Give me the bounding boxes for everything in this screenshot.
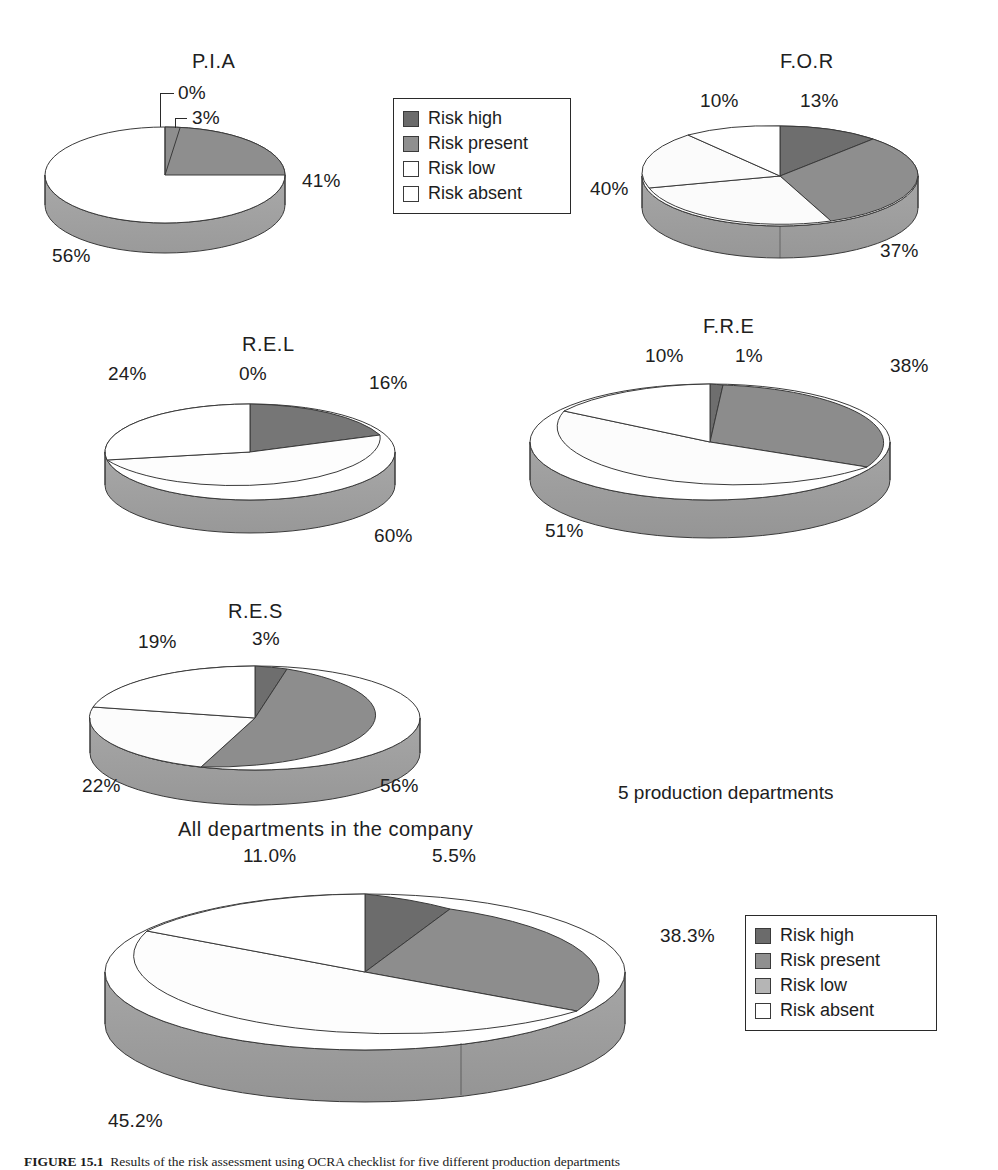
legend-item[interactable]: Risk low <box>403 156 558 181</box>
legend-item[interactable]: Risk present <box>755 948 924 973</box>
pie-value-all-risk-low: 45.2% <box>108 1110 163 1132</box>
figure-caption-label: FIGURE 15.1 Results of the risk assessme… <box>24 1154 620 1169</box>
pie-chart-rel <box>95 390 405 545</box>
pie-chart-pia <box>35 100 295 260</box>
legend-item[interactable]: Risk low <box>755 973 924 998</box>
leader-line-pia-0b <box>160 93 161 127</box>
leader-line-pia-1b <box>175 118 176 128</box>
legend-label-risk-high: Risk high <box>780 925 854 946</box>
pie-value-for-risk-low: 40% <box>590 178 629 200</box>
pie-title-for: F.O.R <box>780 50 834 73</box>
legend-label-risk-high: Risk high <box>428 108 502 129</box>
pie-value-all-risk-present: 38.3% <box>660 925 715 947</box>
pie-chart-res <box>80 650 430 815</box>
pie-value-for-risk-high: 13% <box>800 90 839 112</box>
legend-item[interactable]: Risk absent <box>403 181 558 206</box>
pie-value-rel-risk-high: 0% <box>239 363 267 385</box>
pie-value-res-risk-present: 56% <box>380 775 419 797</box>
legend-label-risk-present: Risk present <box>780 950 880 971</box>
legend-swatch-risk-present <box>403 136 419 152</box>
pie-value-for-risk-present: 37% <box>880 240 919 262</box>
pie-value-all-risk-absent: 11.0% <box>243 845 296 867</box>
leader-line-pia-1 <box>175 118 187 119</box>
pie-value-pia-risk-absent: 56% <box>52 245 91 267</box>
legend-label-risk-absent: Risk absent <box>428 183 522 204</box>
legend-item[interactable]: Risk present <box>403 131 558 156</box>
legend-swatch-risk-absent <box>755 1003 771 1019</box>
legend-item[interactable]: Risk high <box>403 106 558 131</box>
legend-label-risk-present: Risk present <box>428 133 528 154</box>
figure-caption-number: FIGURE 15.1 <box>24 1154 104 1169</box>
pie-value-fre-risk-high: 1% <box>735 345 763 367</box>
legend-swatch-risk-absent <box>403 186 419 202</box>
pie-title-all-departments: All departments in the company <box>178 818 473 841</box>
pie-value-rel-risk-absent: 24% <box>108 363 147 385</box>
pie-value-fre-risk-present: 38% <box>890 355 929 377</box>
pie-value-pia-risk-high: 0% <box>178 82 206 104</box>
pie-title-fre: F.R.E <box>703 315 754 338</box>
pie-value-rel-risk-present: 16% <box>369 372 408 394</box>
legend-item[interactable]: Risk high <box>755 923 924 948</box>
legend-swatch-risk-high <box>755 928 771 944</box>
legend-swatch-risk-present <box>755 953 771 969</box>
pie-title-res: R.E.S <box>228 600 283 623</box>
legend-top: Risk high Risk present Risk low Risk abs… <box>393 98 571 214</box>
pie-value-all-risk-high: 5.5% <box>432 845 476 867</box>
pie-title-pia: P.I.A <box>192 50 235 73</box>
pie-value-res-risk-low: 22% <box>82 775 121 797</box>
legend-item[interactable]: Risk absent <box>755 998 924 1023</box>
legend-bottom: Risk high Risk present Risk low Risk abs… <box>745 915 937 1031</box>
pie-value-fre-risk-low: 51% <box>545 520 584 542</box>
note-production-departments: 5 production departments <box>618 782 833 804</box>
pie-value-fre-risk-absent: 10% <box>645 345 684 367</box>
figure-caption: FIGURE 15.1 Results of the risk assessme… <box>24 1152 620 1170</box>
legend-label-risk-low: Risk low <box>428 158 495 179</box>
leader-line-pia-0 <box>160 93 174 94</box>
pie-title-rel: R.E.L <box>242 333 295 356</box>
pie-value-res-risk-absent: 19% <box>138 631 177 653</box>
legend-swatch-risk-low <box>403 161 419 177</box>
figure-caption-text: Results of the risk assessment using OCR… <box>110 1154 620 1169</box>
pie-value-res-risk-high: 3% <box>252 628 280 650</box>
legend-swatch-risk-high <box>403 111 419 127</box>
pie-value-rel-risk-low: 60% <box>374 525 413 547</box>
pie-value-for-risk-absent: 10% <box>700 90 739 112</box>
legend-label-risk-low: Risk low <box>780 975 847 996</box>
pie-chart-all-departments <box>95 872 635 1112</box>
legend-swatch-risk-low <box>755 978 771 994</box>
pie-value-pia-risk-present: 3% <box>192 107 220 129</box>
pie-value-pia-risk-low: 41% <box>302 170 341 192</box>
legend-label-risk-absent: Risk absent <box>780 1000 874 1021</box>
